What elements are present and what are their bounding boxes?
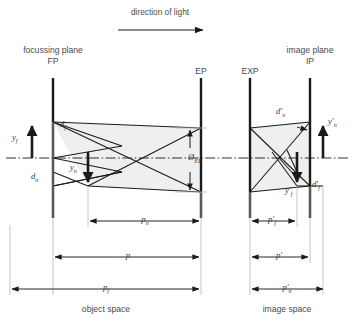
dim-p-prime-label: p′: [276, 251, 282, 260]
dim-pn-label: pn: [141, 215, 148, 226]
y-f-prime-label: y′f: [285, 186, 292, 197]
object-space-dimension-arrows: [12, 221, 199, 289]
d-f-label: df: [60, 120, 66, 131]
y-f-label: yf: [12, 133, 18, 144]
beam-shading: [53, 122, 310, 192]
object-space-caption: object space: [82, 305, 130, 314]
dim-pf-prime-label: p′f: [268, 215, 276, 226]
ip-plane-name: image plane: [287, 46, 334, 55]
y-n-label: yn: [70, 163, 77, 174]
aperture-diameter-label: ØEP: [188, 153, 202, 164]
figure-canvas: direction of light focussing plane FP EP…: [0, 0, 356, 327]
dim-pn-prime-label: p′n: [282, 283, 291, 294]
direction-of-light-label: direction of light: [131, 8, 189, 16]
fp-plane-name: focussing plane: [23, 46, 83, 55]
fp-plane-abbr: FP: [48, 57, 59, 66]
exp-plane-abbr: EXP: [241, 67, 258, 76]
d-n-label: dn: [31, 172, 38, 183]
dim-p-label: p: [126, 251, 130, 260]
ip-plane-abbr: IP: [306, 57, 314, 66]
d-f-prime-label: d′f: [312, 180, 320, 191]
y-n-prime-label: y′n: [328, 117, 337, 128]
ep-plane-abbr: EP: [195, 67, 206, 76]
dim-pf-label: pf: [103, 283, 109, 294]
image-space-dimension-arrows: [252, 221, 323, 289]
d-n-prime-label: d′n: [276, 107, 285, 118]
image-space-caption: image space: [263, 305, 312, 314]
